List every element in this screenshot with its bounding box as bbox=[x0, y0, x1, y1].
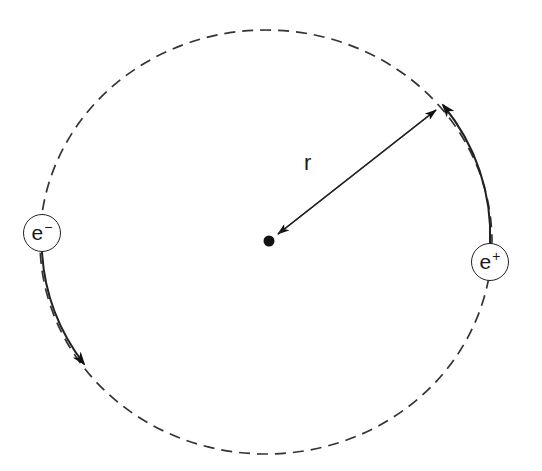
orbit-diagram bbox=[0, 0, 542, 471]
electron-symbol: e bbox=[32, 221, 44, 245]
electron-motion-arrow bbox=[42, 252, 84, 364]
center-dot bbox=[264, 236, 275, 247]
positron-motion-arrow bbox=[443, 105, 490, 244]
positron-marker: e+ bbox=[471, 243, 509, 281]
electron-charge: − bbox=[44, 219, 52, 235]
radius-label: r bbox=[304, 150, 311, 176]
positron-charge: + bbox=[492, 248, 500, 264]
electron-marker: e− bbox=[23, 214, 61, 252]
positron-symbol: e bbox=[480, 250, 492, 274]
